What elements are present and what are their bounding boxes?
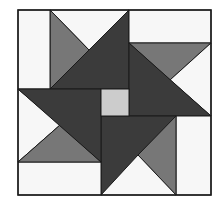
white-corner-top-left	[18, 10, 50, 89]
white-corner-bottom-right	[176, 116, 211, 195]
center-square	[101, 89, 129, 116]
white-corner-bottom-left	[18, 162, 101, 195]
white-corner-top-right	[129, 10, 211, 43]
quilt-block	[0, 0, 224, 202]
